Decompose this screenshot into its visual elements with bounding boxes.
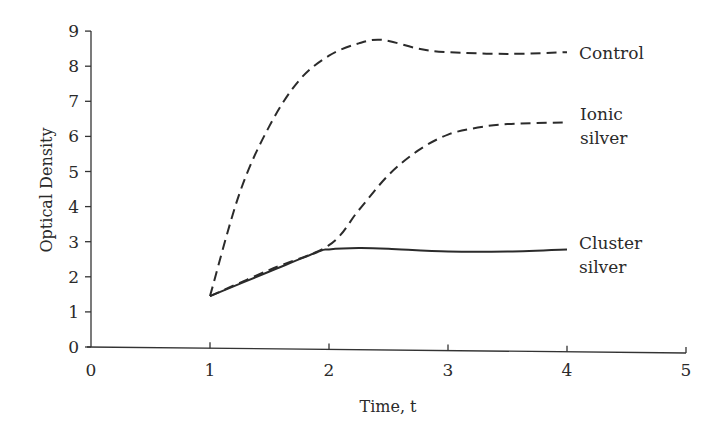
cluster-silver-label: Cluster: [579, 233, 643, 253]
y-tick-label: 9: [68, 21, 79, 41]
x-tick-label: 0: [86, 360, 97, 380]
axes: 0123456789012345: [68, 21, 691, 380]
y-tick-label: 5: [68, 162, 79, 182]
cluster-silver-curve: [210, 248, 567, 296]
y-tick-label: 4: [68, 197, 79, 217]
control-curve: [210, 40, 567, 296]
y-tick-label: 1: [68, 302, 79, 322]
optical-density-chart: 0123456789012345 ControlIonicsilverClust…: [0, 0, 726, 432]
control-label: Control: [579, 43, 644, 63]
curves: [210, 40, 567, 296]
y-tick-label: 2: [68, 267, 79, 287]
y-tick-label: 0: [68, 337, 79, 357]
ionic-silver-label: silver: [580, 128, 628, 148]
series-labels: ControlIonicsilverClustersilver: [579, 43, 644, 277]
y-tick-label: 7: [68, 91, 79, 111]
x-tick-label: 5: [681, 360, 692, 380]
y-axis-title: Optical Density: [37, 127, 56, 252]
x-axis-line: [87, 347, 686, 353]
x-axis-title: Time, t: [359, 397, 417, 416]
x-tick-label: 3: [443, 360, 454, 380]
y-tick-label: 3: [68, 232, 79, 252]
ionic-silver-curve: [210, 122, 567, 296]
ionic-silver-label: Ionic: [580, 104, 623, 124]
cluster-silver-label: silver: [579, 257, 627, 277]
y-tick-label: 8: [68, 56, 79, 76]
x-tick-label: 4: [562, 360, 573, 380]
x-tick-label: 1: [205, 360, 216, 380]
x-tick-label: 2: [324, 360, 335, 380]
y-tick-label: 6: [68, 126, 79, 146]
